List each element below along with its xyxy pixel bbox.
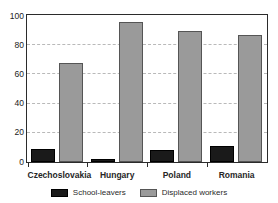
legend-label: School-leavers xyxy=(73,188,126,197)
x-axis-tick xyxy=(207,163,208,167)
bar-chart: 020406080100 School-leaversDisplaced wor… xyxy=(0,0,278,203)
x-axis-tick xyxy=(87,163,88,167)
bar-hungary-school-leavers xyxy=(91,159,115,162)
legend-item[interactable]: Displaced workers xyxy=(140,188,227,197)
x-axis-category-label: Hungary xyxy=(87,170,147,180)
x-axis-tick xyxy=(147,163,148,167)
y-axis-tick-label: 40 xyxy=(2,99,24,107)
bar-poland-displaced-workers xyxy=(178,31,202,162)
y-axis-tick-label: 0 xyxy=(2,158,24,166)
gridline xyxy=(27,44,267,45)
x-axis-category-label: Romania xyxy=(207,170,267,180)
y-axis-tick-label: 80 xyxy=(2,41,24,49)
bar-hungary-displaced-workers xyxy=(119,22,143,162)
chart-legend: School-leaversDisplaced workers xyxy=(0,188,278,197)
dark-swatch-icon xyxy=(51,189,68,197)
light-swatch-icon xyxy=(140,189,157,197)
bar-czechoslovakia-school-leavers xyxy=(31,149,55,162)
x-axis-category-label: Czechoslovakia xyxy=(28,170,88,180)
y-axis-tick-label: 100 xyxy=(2,12,24,20)
y-axis-tick-label: 20 xyxy=(2,128,24,136)
y-axis: 020406080100 xyxy=(0,14,24,163)
bar-poland-school-leavers xyxy=(150,150,174,162)
bar-czechoslovakia-displaced-workers xyxy=(59,63,83,162)
bar-romania-displaced-workers xyxy=(238,35,262,162)
chart-title xyxy=(0,0,278,1)
y-axis-tick-label: 60 xyxy=(2,70,24,78)
legend-label: Displaced workers xyxy=(162,188,227,197)
legend-item[interactable]: School-leavers xyxy=(51,188,126,197)
x-axis-category-label: Poland xyxy=(147,170,207,180)
plot-area xyxy=(26,14,268,163)
bar-romania-school-leavers xyxy=(210,146,234,162)
x-axis-tick xyxy=(28,163,29,167)
